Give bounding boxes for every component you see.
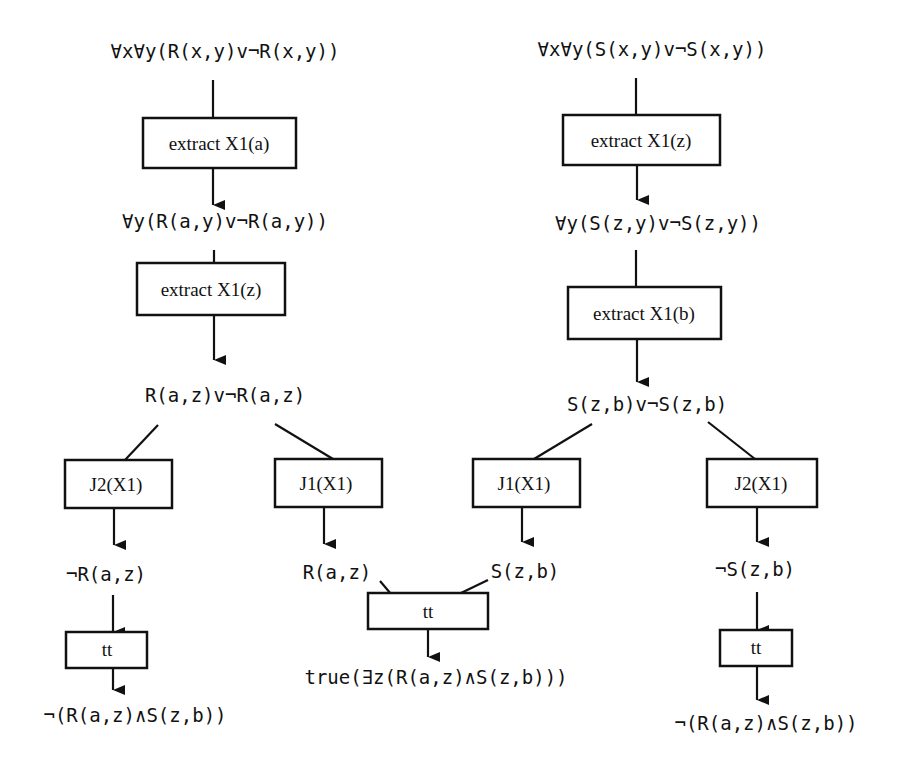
proof-tree-diagram: ∀x∀y(R(x,y)v¬R(x,y)) extract X1(a) ∀y(R(… <box>0 0 913 773</box>
left-root-formula: ∀x∀y(R(x,y)v¬R(x,y)) <box>111 40 340 62</box>
join-conclusion: true(∃z(R(a,z)∧S(z,b))) <box>304 666 567 688</box>
left-j2-label: J2(X1) <box>90 474 143 496</box>
right-s-formula: S(z,b) <box>491 560 560 582</box>
right-extract-z-label: extract X1(z) <box>591 130 692 152</box>
join-edge-right <box>461 580 488 593</box>
left-neg-r-formula: ¬R(a,z) <box>66 563 146 585</box>
left-branch-edge-right <box>275 424 333 459</box>
right-conclusion: ¬(R(a,z)∧S(z,b)) <box>674 712 857 734</box>
right-tt-label: tt <box>751 637 762 658</box>
right-j1-label: J1(X1) <box>498 473 551 495</box>
right-formula-2: ∀y(S(z,y)v¬S(z,y)) <box>555 212 761 234</box>
left-extract-z-label: extract X1(z) <box>161 279 262 301</box>
join-tt-label: tt <box>423 601 434 622</box>
right-branch-edge-left <box>534 424 592 459</box>
left-formula-3: R(a,z)v¬R(a,z) <box>145 384 305 406</box>
left-r-formula: R(a,z) <box>303 561 372 583</box>
right-neg-s-formula: ¬S(z,b) <box>715 558 795 580</box>
left-tt-label: tt <box>102 639 113 660</box>
left-formula-2: ∀y(R(a,y)v¬R(a,y)) <box>122 210 328 232</box>
left-conclusion: ¬(R(a,z)∧S(z,b)) <box>43 704 226 726</box>
left-branch-edge-left <box>125 425 158 460</box>
right-branch-edge-right <box>708 422 755 459</box>
right-formula-3: S(z,b)v¬S(z,b) <box>567 393 727 415</box>
right-j2-label: J2(X1) <box>735 473 788 495</box>
right-root-formula: ∀x∀y(S(x,y)v¬S(x,y)) <box>538 38 767 60</box>
left-extract-a-label: extract X1(a) <box>169 133 270 155</box>
right-extract-b-label: extract X1(b) <box>593 303 695 325</box>
left-j1-label: J1(X1) <box>300 473 353 495</box>
